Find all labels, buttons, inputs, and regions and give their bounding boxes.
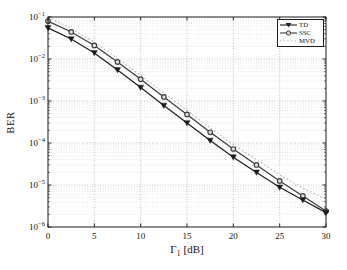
x-axis-unit: [dB]: [183, 243, 203, 255]
x-tick-label: 5: [92, 231, 97, 241]
x-axis-label: Γ1[dB]: [48, 243, 326, 258]
marker-circle: [208, 130, 213, 135]
y-tick-label: 10−4: [29, 136, 46, 148]
marker-triangle-down: [277, 185, 283, 190]
x-axis-subscript: 1: [177, 249, 181, 258]
marker-circle: [115, 60, 120, 65]
y-tick-label: 10−1: [29, 10, 45, 22]
circle-marker-icon: [286, 31, 290, 35]
x-tick-label: 15: [183, 231, 193, 241]
marker-circle: [254, 163, 259, 168]
y-tick-label: 10−6: [29, 220, 46, 232]
x-tick-label: 25: [275, 231, 285, 241]
x-tick-label: 20: [229, 231, 239, 241]
legend-swatch-mvd: [280, 37, 297, 45]
x-tick-label: 10: [136, 231, 146, 241]
marker-triangle-down: [300, 198, 306, 203]
ber-figure: 05101520253010−110−210−310−410−510−6 BER…: [0, 0, 347, 270]
y-tick-label: 10−3: [29, 94, 45, 106]
y-axis-label: BER: [5, 100, 18, 146]
legend-box: TDSSCMVD: [277, 19, 324, 47]
marker-circle: [69, 30, 74, 35]
marker-circle: [185, 112, 190, 117]
marker-circle: [277, 179, 282, 184]
marker-triangle-down: [68, 37, 74, 42]
legend-label: MVD: [299, 38, 315, 45]
y-tick-label: 10−2: [29, 52, 45, 64]
legend-entry-td: TD: [280, 21, 321, 29]
legend-entry-mvd: MVD: [280, 37, 321, 45]
marker-circle: [231, 147, 236, 152]
legend-entry-ssc: SSC: [280, 29, 321, 37]
y-tick-label: 10−5: [29, 178, 45, 190]
legend-swatch-ssc: [280, 29, 297, 37]
legend-swatch-td: [280, 21, 297, 29]
legend-label: TD: [299, 22, 308, 29]
x-tick-label: 30: [322, 231, 332, 241]
marker-circle: [162, 95, 167, 100]
legend-label: SSC: [299, 30, 311, 37]
marker-circle: [138, 77, 143, 82]
x-tick-label: 0: [46, 231, 51, 241]
marker-circle: [92, 43, 97, 48]
